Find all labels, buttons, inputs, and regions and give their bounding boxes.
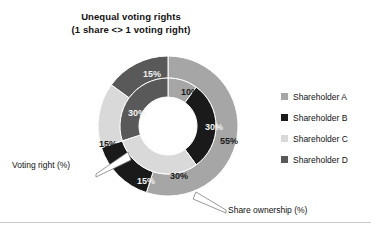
- legend-item-label: Shareholder A: [293, 92, 347, 102]
- chart-legend: Shareholder AShareholder BShareholder CS…: [281, 86, 348, 170]
- callout-share-ownership: Share ownership (%): [228, 205, 307, 215]
- legend-swatch-icon: [281, 93, 288, 100]
- legend-item-label: Shareholder D: [293, 155, 348, 165]
- outer-ring-share-ownership: [98, 56, 238, 196]
- chart-title-line-2: (1 share <> 1 voting right): [0, 24, 262, 37]
- chart-canvas: Unequal voting rights (1 share <> 1 voti…: [0, 0, 371, 230]
- legend-swatch-icon: [281, 135, 288, 142]
- legend-item[interactable]: Shareholder C: [281, 128, 348, 149]
- legend-swatch-icon: [281, 114, 288, 121]
- legend-item-label: Shareholder C: [293, 134, 348, 144]
- bottom-divider: [0, 222, 371, 223]
- donut-svg: [98, 56, 238, 196]
- chart-title: Unequal voting rights (1 share <> 1 voti…: [0, 11, 262, 36]
- inner-ring-voting-right: [120, 78, 216, 174]
- nested-donut-chart: [98, 56, 238, 196]
- legend-item[interactable]: Shareholder D: [281, 149, 348, 170]
- callout-voting-right: Voting right (%): [12, 160, 70, 170]
- legend-item-label: Shareholder B: [293, 113, 347, 123]
- chart-title-line-1: Unequal voting rights: [0, 11, 262, 24]
- legend-item[interactable]: Shareholder A: [281, 86, 348, 107]
- legend-item[interactable]: Shareholder B: [281, 107, 348, 128]
- legend-swatch-icon: [281, 156, 288, 163]
